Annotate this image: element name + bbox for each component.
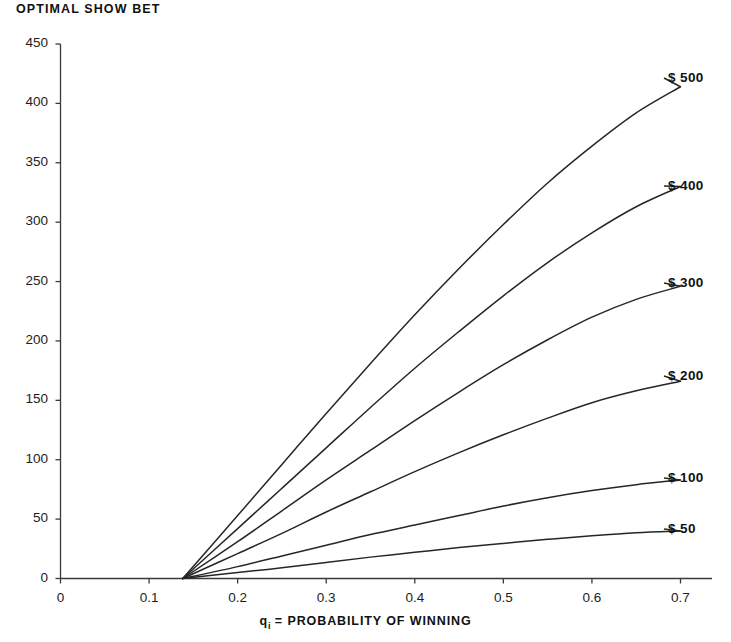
y-tick-label: 100 — [4, 451, 48, 466]
curve-100 — [183, 480, 681, 579]
y-tick-label: 50 — [4, 510, 48, 525]
x-tick-marks — [61, 579, 681, 584]
y-tick-label: 200 — [4, 332, 48, 347]
x-tick-label: 0.5 — [478, 590, 528, 605]
series-label: $ 400 — [668, 178, 704, 193]
x-tick-label: 0.4 — [390, 590, 440, 605]
data-curves — [183, 87, 681, 579]
curve-200 — [183, 381, 681, 578]
y-tick-label: 0 — [4, 570, 48, 585]
curve-500 — [183, 87, 681, 579]
curve-400 — [183, 187, 681, 579]
y-tick-label: 450 — [4, 35, 48, 50]
series-label: $ 200 — [668, 368, 704, 383]
x-axis-title-text: = PROBABILITY OF WINNING — [270, 614, 471, 628]
chart-container: OPTIMAL SHOW BET 05010015020025030035040… — [0, 0, 731, 642]
y-tick-label: 350 — [4, 154, 48, 169]
series-label: $ 50 — [668, 521, 696, 536]
x-tick-label: 0 — [36, 590, 86, 605]
y-tick-label: 250 — [4, 273, 48, 288]
y-tick-label: 400 — [4, 94, 48, 109]
curve-50 — [183, 531, 681, 579]
x-axis-title-symbol: q — [259, 614, 268, 628]
label-leader-lines — [664, 78, 681, 531]
x-tick-label: 0.3 — [301, 590, 351, 605]
x-tick-label: 0.7 — [656, 590, 706, 605]
x-axis-title: qi = PROBABILITY OF WINNING — [0, 614, 731, 631]
x-tick-label: 0.2 — [213, 590, 263, 605]
series-label: $ 300 — [668, 275, 704, 290]
axes — [61, 44, 713, 579]
x-tick-label: 0.1 — [124, 590, 174, 605]
y-tick-label: 150 — [4, 391, 48, 406]
y-tick-label: 300 — [4, 213, 48, 228]
series-label: $ 100 — [668, 470, 704, 485]
chart-plot-area — [0, 0, 731, 642]
x-tick-label: 0.6 — [567, 590, 617, 605]
y-tick-marks — [56, 44, 61, 579]
series-label: $ 500 — [668, 70, 704, 85]
